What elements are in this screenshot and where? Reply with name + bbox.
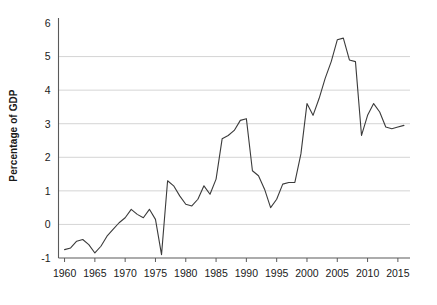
- x-tick-label: 1965: [83, 267, 107, 279]
- x-tick-label: 2000: [295, 267, 319, 279]
- chart-container: Percentage of GDP 6543210-1 196019651970…: [0, 0, 437, 305]
- y-tick-label: 6: [45, 17, 51, 29]
- x-tick-label: 1980: [174, 267, 198, 279]
- y-tick-label: 2: [45, 151, 51, 163]
- y-tick-label: 4: [45, 84, 51, 96]
- data-series-line: [65, 38, 404, 255]
- x-tick-label: 1975: [144, 267, 168, 279]
- x-axis-tick-labels: 1960196519701975198019851990199520002005…: [53, 267, 410, 279]
- y-tick-label: 1: [45, 185, 51, 197]
- x-tick-label: 1990: [235, 267, 259, 279]
- y-tick-label: 5: [45, 50, 51, 62]
- x-tick-label: 1970: [113, 267, 137, 279]
- x-axis-tick-marks: [65, 258, 398, 262]
- y-axis-tick-labels: 6543210-1: [41, 17, 51, 264]
- x-tick-label: 1960: [53, 267, 77, 279]
- y-tick-label: 3: [45, 118, 51, 130]
- x-tick-label: 1995: [265, 267, 289, 279]
- line-chart-plot: 6543210-1 196019651970197519801985199019…: [0, 0, 437, 305]
- x-tick-label: 2005: [326, 267, 350, 279]
- x-tick-label: 1985: [204, 267, 228, 279]
- x-tick-label: 2010: [356, 267, 380, 279]
- x-tick-label: 2015: [386, 267, 410, 279]
- y-tick-label: 0: [45, 218, 51, 230]
- y-tick-label: -1: [41, 252, 50, 264]
